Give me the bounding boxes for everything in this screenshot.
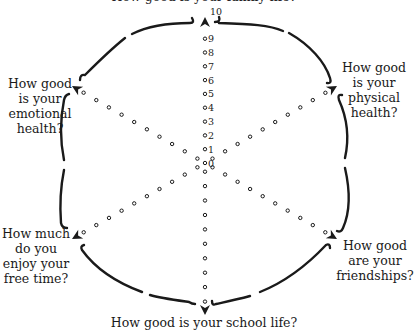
scale-dot bbox=[158, 135, 161, 138]
scale-dot bbox=[311, 223, 314, 226]
scale-dot bbox=[120, 113, 123, 116]
scale-dot bbox=[203, 257, 206, 260]
label-line: How good bbox=[336, 238, 414, 253]
scale-dot bbox=[203, 271, 206, 274]
frame-brace bbox=[81, 245, 195, 304]
scale-dot bbox=[203, 92, 206, 95]
scale-dot bbox=[203, 285, 206, 288]
scale-dot bbox=[203, 199, 206, 202]
scale-ticks: 012345678910 bbox=[208, 6, 222, 169]
scale-dot bbox=[158, 187, 161, 190]
scale-dot bbox=[203, 170, 206, 173]
scale-dot bbox=[274, 202, 277, 205]
scale-dot bbox=[133, 120, 136, 123]
scale-dot bbox=[170, 180, 173, 183]
scale-dot bbox=[203, 184, 206, 187]
label-line: How much bbox=[0, 226, 72, 241]
label-line: is your bbox=[0, 91, 80, 106]
scale-dot bbox=[203, 148, 206, 151]
scale-dot bbox=[133, 202, 136, 205]
label-line: health? bbox=[0, 121, 80, 136]
scale-dot bbox=[203, 51, 206, 54]
scale-dot bbox=[107, 106, 110, 109]
arrowhead-icon bbox=[200, 17, 210, 27]
label-line: friendships? bbox=[336, 268, 414, 283]
scale-tick-label: 2 bbox=[208, 130, 214, 141]
scale-dot bbox=[95, 98, 98, 101]
scale-dot bbox=[203, 242, 206, 245]
scale-tick-label: 6 bbox=[208, 75, 214, 86]
scale-dot bbox=[196, 166, 199, 169]
scale-dot bbox=[248, 187, 251, 190]
label-line: is your bbox=[338, 75, 410, 90]
scale-tick-label: 9 bbox=[208, 33, 214, 44]
label-line: health? bbox=[338, 105, 410, 120]
frame-brace bbox=[212, 244, 330, 304]
scale-dot bbox=[299, 216, 302, 219]
scale-tick-label: 0 bbox=[208, 158, 214, 169]
arrowhead-icon bbox=[200, 305, 210, 315]
scale-dot bbox=[286, 113, 289, 116]
scale-tick-label: 8 bbox=[208, 47, 214, 58]
scale-dot bbox=[145, 128, 148, 131]
scale-dot bbox=[95, 223, 98, 226]
label-line: are your bbox=[336, 253, 414, 268]
lower-left-label: How much do you enjoy your free time? bbox=[0, 226, 72, 286]
scale-dot bbox=[203, 106, 206, 109]
scale-dot bbox=[311, 98, 314, 101]
scale-dot bbox=[170, 142, 173, 145]
scale-tick-label: 3 bbox=[208, 116, 214, 127]
scale-dot bbox=[203, 300, 206, 303]
scale-dot bbox=[274, 120, 277, 123]
scale-dot bbox=[286, 209, 289, 212]
scale-dot bbox=[203, 37, 206, 40]
label-line: do you bbox=[0, 241, 72, 256]
scale-dot bbox=[299, 106, 302, 109]
scale-tick-label: 1 bbox=[208, 144, 214, 155]
scale-dot bbox=[236, 180, 239, 183]
scale-dot bbox=[261, 128, 264, 131]
scale-dot bbox=[196, 157, 199, 160]
lower-right-label: How good are your friendships? bbox=[336, 238, 414, 283]
scale-tick-label: 4 bbox=[208, 102, 214, 113]
scale-dot bbox=[203, 120, 206, 123]
scale-dot bbox=[203, 134, 206, 137]
scale-dot bbox=[203, 228, 206, 231]
scale-dot bbox=[223, 173, 226, 176]
scale-dot bbox=[324, 231, 327, 234]
scale-dot bbox=[203, 78, 206, 81]
scale-dot bbox=[107, 216, 110, 219]
label-line: physical bbox=[338, 90, 410, 105]
label-line: enjoy your bbox=[0, 256, 72, 271]
scale-tick-label: 5 bbox=[208, 88, 214, 99]
scale-tick-label: 10 bbox=[210, 6, 222, 17]
scale-dot bbox=[183, 150, 186, 153]
scale-dot bbox=[248, 135, 251, 138]
scale-dot bbox=[203, 161, 206, 164]
upper-right-label: How good is your physical health? bbox=[338, 60, 410, 120]
scale-dot bbox=[120, 209, 123, 212]
scale-dot bbox=[261, 195, 264, 198]
scale-dot bbox=[82, 91, 85, 94]
label-line: How good bbox=[0, 76, 80, 91]
decorative-frame bbox=[60, 17, 348, 305]
label-line: free time? bbox=[0, 271, 72, 286]
scale-dot bbox=[203, 65, 206, 68]
scale-dot bbox=[223, 150, 226, 153]
bottom-spoke-label: How good is your school life? bbox=[0, 315, 408, 330]
scale-dot bbox=[203, 213, 206, 216]
frame-brace bbox=[80, 18, 193, 80]
arrowhead-icon bbox=[72, 230, 83, 239]
label-line: emotional bbox=[0, 106, 80, 121]
scale-dot bbox=[324, 91, 327, 94]
upper-left-label: How good is your emotional health? bbox=[0, 76, 80, 136]
scale-tick-label: 7 bbox=[208, 61, 214, 72]
scale-dot bbox=[145, 195, 148, 198]
scale-dot bbox=[236, 142, 239, 145]
label-line: How good bbox=[338, 60, 410, 75]
scale-dot bbox=[183, 173, 186, 176]
scale-dot bbox=[82, 231, 85, 234]
arrowhead-icon bbox=[326, 86, 337, 95]
frame-brace bbox=[215, 17, 331, 83]
